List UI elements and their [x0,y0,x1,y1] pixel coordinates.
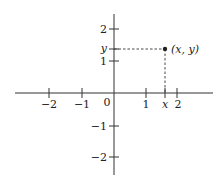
x-tick-label: 1 [143,98,150,111]
x-tick-label: −1 [74,98,90,111]
y-tick-label: 2 [100,23,107,36]
y-tick-label: −1 [91,120,107,133]
point-label: (x, y) [171,43,199,56]
origin-label: 0 [104,96,111,109]
x-tick-label: x [162,98,169,111]
point-marker [163,47,167,51]
y-tick-label: −2 [91,151,107,164]
x-tick-label: 2 [175,98,182,111]
x-tick-label: −2 [41,98,57,111]
y-tick-label: y [100,42,108,55]
y-tick-label: 1 [100,55,107,68]
coordinate-plane: −2 −1 0 1 x 2 2 y 1 −1 −2 (x, y) [0,0,224,185]
